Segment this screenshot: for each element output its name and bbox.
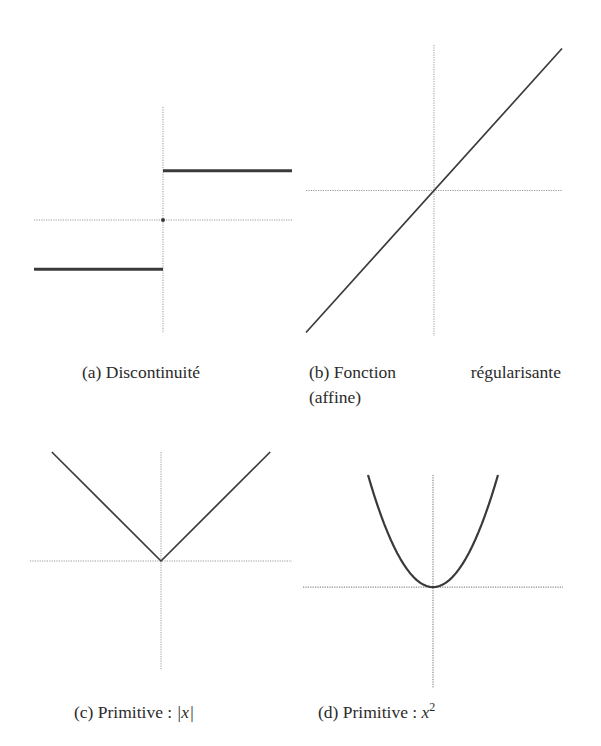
caption-d-math-exponent: 2 xyxy=(429,700,435,714)
subfigure-d-plot xyxy=(303,475,563,688)
caption-b: (b) Fonction régularisante (affine) xyxy=(309,360,561,410)
caption-c-prefix: Primitive : xyxy=(98,702,172,722)
caption-c-math: |x| xyxy=(177,702,194,722)
caption-b-word2: régularisante xyxy=(471,360,561,385)
caption-d: (d) Primitive : x2 xyxy=(318,700,435,725)
caption-d-prefix: Primitive : xyxy=(343,702,417,722)
caption-b-word1: Fonction xyxy=(334,362,396,382)
caption-d-math: x2 xyxy=(422,702,436,722)
caption-b-label: (b) xyxy=(309,362,329,382)
caption-c-label: (c) xyxy=(74,702,93,722)
caption-a-text: Discontinuité xyxy=(106,362,200,382)
caption-c: (c) Primitive : |x| xyxy=(74,700,194,725)
series-line-c-0 xyxy=(52,452,270,561)
subfigure-c-plot xyxy=(30,452,292,670)
caption-b-line2: (affine) xyxy=(309,385,561,410)
caption-a: (a) Discontinuité xyxy=(82,360,200,385)
point-a-origin xyxy=(161,218,165,222)
caption-a-label: (a) xyxy=(82,362,101,382)
subfigure-a-plot xyxy=(34,107,292,333)
caption-d-label: (d) xyxy=(318,702,338,722)
subfigure-b-plot xyxy=(306,45,562,336)
